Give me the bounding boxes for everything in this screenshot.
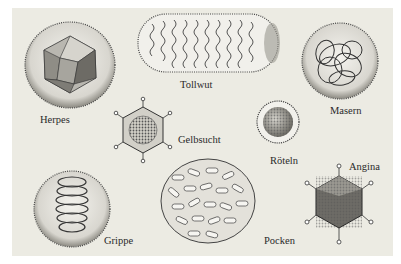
roeteln-virus bbox=[257, 101, 299, 143]
label-tollwut: Tollwut bbox=[180, 80, 213, 91]
label-pocken: Pocken bbox=[264, 236, 295, 247]
label-gelbsucht: Gelbsucht bbox=[178, 135, 221, 146]
tollwut-virus bbox=[138, 14, 280, 72]
gelbsucht-virus bbox=[114, 97, 172, 163]
masern-virus bbox=[302, 23, 378, 99]
label-angina: Angina bbox=[349, 162, 380, 173]
label-roeteln: Röteln bbox=[270, 156, 298, 167]
label-herpes: Herpes bbox=[40, 115, 70, 126]
pocken-virus bbox=[161, 159, 255, 243]
angina-virus bbox=[305, 164, 373, 244]
grippe-virus bbox=[34, 171, 110, 247]
virus-illustration bbox=[0, 0, 401, 264]
label-grippe: Grippe bbox=[104, 236, 133, 247]
herpes-virus bbox=[25, 22, 115, 108]
label-masern: Masern bbox=[330, 106, 362, 117]
